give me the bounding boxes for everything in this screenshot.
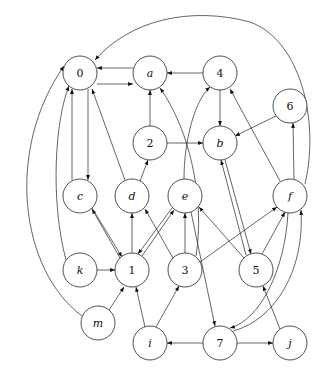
- node-j: j: [273, 326, 307, 360]
- edge-5-e: [199, 207, 244, 258]
- node-label: b: [216, 137, 223, 150]
- node-label: m: [93, 317, 103, 330]
- node-label: 5: [253, 264, 260, 277]
- node-e: e: [168, 179, 202, 213]
- node-f: f: [273, 179, 307, 213]
- node-m: m: [81, 306, 115, 340]
- edge-1-c: [92, 209, 120, 258]
- node-6: 6: [273, 89, 307, 123]
- edge-c-1: [92, 208, 122, 257]
- node-a: a: [133, 56, 167, 90]
- edge-i-1: [136, 287, 145, 327]
- node-5: 5: [239, 253, 273, 287]
- node-d: d: [115, 179, 149, 213]
- node-label: 7: [217, 337, 224, 350]
- node-label: d: [128, 190, 135, 203]
- edge-b-5: [225, 160, 251, 254]
- edge-6-b: [235, 116, 276, 136]
- node-label: 0: [77, 67, 84, 80]
- edge-m-1: [109, 287, 124, 310]
- node-label: e: [182, 190, 189, 203]
- node-label: k: [77, 264, 84, 277]
- node-label: 4: [217, 67, 224, 80]
- edge-i-3: [156, 286, 179, 327]
- node-0: 0: [63, 56, 97, 90]
- node-label: a: [147, 67, 154, 80]
- edge-f-6: [293, 123, 294, 180]
- node-label: 3: [182, 264, 189, 277]
- node-7: 7: [203, 326, 237, 360]
- node-4: 4: [203, 56, 237, 90]
- node-label: 1: [129, 264, 136, 277]
- edge-d-0: [92, 89, 125, 180]
- node-i: i: [133, 326, 167, 360]
- edge-3-d: [145, 209, 173, 258]
- node-c: c: [63, 179, 97, 213]
- edge-3-f: [200, 207, 277, 262]
- node-label: 6: [287, 100, 294, 113]
- edge-d-2: [140, 160, 148, 181]
- edge-k-0: [56, 86, 69, 260]
- nodes-layer: 0a462bcdefk135mi7j: [63, 56, 307, 360]
- edge-1-e: [142, 210, 174, 256]
- edge-5-f: [262, 212, 285, 254]
- edge-3-a: [160, 88, 199, 256]
- node-label: i: [148, 337, 152, 350]
- node-b: b: [203, 126, 237, 160]
- graph-canvas: 0a462bcdefk135mi7j: [0, 0, 325, 371]
- node-3: 3: [168, 253, 202, 287]
- edge-5-b: [221, 160, 246, 255]
- node-label: c: [77, 190, 83, 203]
- node-k: k: [63, 253, 97, 287]
- node-label: 2: [147, 137, 154, 150]
- node-2: 2: [133, 126, 167, 160]
- node-1: 1: [115, 253, 149, 287]
- edge-j-5: [263, 286, 280, 329]
